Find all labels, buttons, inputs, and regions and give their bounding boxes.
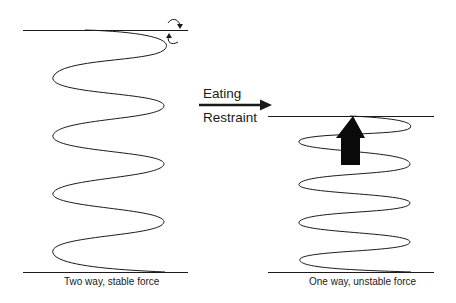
clockwise-arrow-icon [168,19,183,29]
left-caption: Two way, stable force [64,276,159,287]
counterclockwise-arrow-icon [166,33,178,44]
left-spring-diagram [23,19,188,272]
diagram-canvas: Eating Restraint Two way, stable force O… [0,0,456,303]
left-spring-coil [53,30,167,272]
up-force-arrow-icon [336,116,365,165]
transition-arrow-icon [199,100,272,111]
right-spring-diagram [268,116,434,273]
eating-label: Eating [203,86,241,101]
restraint-label: Restraint [203,110,257,125]
diagram-graphics [0,0,456,303]
right-caption: One way, unstable force [309,276,416,287]
